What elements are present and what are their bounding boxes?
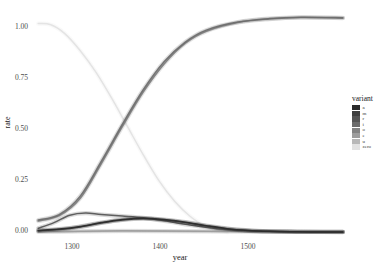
series-band	[38, 24, 227, 233]
y-tick-label-2: 0.75	[4, 73, 28, 82]
plot-area	[0, 0, 387, 275]
legend-title: variant	[352, 94, 387, 103]
y-tick-label-5: 0.00	[4, 226, 28, 235]
series-line	[38, 24, 227, 233]
y-tick-label-1: 1.00	[4, 22, 28, 31]
legend: variant amrioeuzero	[352, 94, 387, 150]
legend-swatch	[352, 122, 360, 127]
legend-item-label: zero	[363, 144, 372, 150]
x-tick-label-3: 1500	[233, 242, 263, 251]
legend-swatch	[352, 144, 360, 149]
legend-item: zero	[352, 144, 387, 150]
y-tick-label-4: 0.25	[4, 175, 28, 184]
x-axis-title: year	[120, 252, 240, 262]
legend-swatch	[352, 128, 360, 133]
legend-swatch	[352, 133, 360, 138]
legend-swatch	[352, 139, 360, 144]
legend-items: amrioeuzero	[352, 105, 387, 150]
legend-swatch	[352, 116, 360, 121]
legend-swatch	[352, 105, 360, 110]
y-axis-title: rate	[3, 117, 12, 129]
series-group	[38, 17, 343, 232]
x-tick-label-2: 1400	[145, 242, 175, 251]
line-chart: 1.00 0.75 0.50 0.25 0.00 1300 1400 1500 …	[0, 0, 387, 275]
x-tick-label-1: 1300	[57, 242, 87, 251]
legend-swatch	[352, 111, 360, 116]
series-line	[38, 17, 343, 220]
